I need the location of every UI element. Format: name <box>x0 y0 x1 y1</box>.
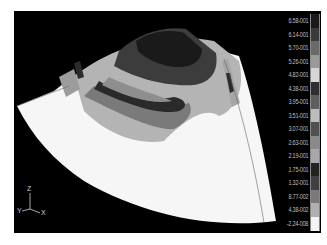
legend-value: 8.77-002 <box>288 190 308 204</box>
legend-color-swatch <box>310 176 320 190</box>
legend-color-swatch <box>310 68 320 82</box>
legend-value: 2.63-001 <box>288 136 308 150</box>
legend-color-swatch <box>310 28 320 42</box>
legend-color-swatch <box>310 163 320 177</box>
legend-entry: 2.19-001 <box>268 149 322 163</box>
legend-value: -2.24-008 <box>287 217 308 231</box>
legend-value: 6.14-001 <box>288 28 308 42</box>
legend-color-swatch <box>310 149 320 163</box>
axis-triad <box>22 193 40 213</box>
legend-entry: 3.51-001 <box>268 109 322 123</box>
legend-color-swatch <box>310 217 320 231</box>
legend-value: 5.26-001 <box>288 55 308 69</box>
legend-value: 1.32-001 <box>288 176 308 190</box>
legend-color-swatch <box>310 122 320 136</box>
legend-value: 4.38-001 <box>288 82 308 96</box>
legend-entry: 8.77-002 <box>268 190 322 204</box>
legend-entry: 6.58-001 <box>268 14 322 28</box>
legend-entry: 3.95-001 <box>268 95 322 109</box>
legend-entry: 5.70-001 <box>268 41 322 55</box>
legend-entry: 4.38-001 <box>268 82 322 96</box>
legend-entry: 5.26-001 <box>268 55 322 69</box>
legend-color-swatch <box>310 109 320 123</box>
legend-value: 2.19-001 <box>288 149 308 163</box>
legend-entry: 1.32-001 <box>268 176 322 190</box>
legend-entry: 2.63-001 <box>268 136 322 150</box>
legend-entry: 4.82-001 <box>268 68 322 82</box>
legend-entry: 3.07-001 <box>268 122 322 136</box>
legend-entry: 1.75-001 <box>268 163 322 177</box>
legend-value: 3.95-001 <box>288 95 308 109</box>
legend-color-swatch <box>310 136 320 150</box>
legend-entry: 6.14-001 <box>268 28 322 42</box>
color-legend: 6.58-0016.14-0015.70-0015.26-0014.82-001… <box>268 14 322 230</box>
legend-value: 1.75-001 <box>288 163 308 177</box>
legend-color-swatch <box>310 190 320 204</box>
legend-entry: 4.38-002 <box>268 203 322 217</box>
legend-value: 3.07-001 <box>288 122 308 136</box>
axis-x-label: X <box>41 209 46 216</box>
legend-color-swatch <box>310 14 320 28</box>
legend-color-swatch <box>310 41 320 55</box>
legend-color-swatch <box>310 55 320 69</box>
legend-entry: -2.24-008 <box>268 217 322 231</box>
legend-value: 3.51-001 <box>288 109 308 123</box>
axis-y-label: Y <box>17 207 22 214</box>
legend-value: 5.70-001 <box>288 41 308 55</box>
legend-value: 4.38-002 <box>288 203 308 217</box>
legend-value: 4.82-001 <box>288 68 308 82</box>
legend-color-swatch <box>310 95 320 109</box>
legend-color-swatch <box>310 203 320 217</box>
legend-value: 6.58-001 <box>288 14 308 28</box>
legend-color-swatch <box>310 82 320 96</box>
axis-z-label: Z <box>27 185 31 192</box>
